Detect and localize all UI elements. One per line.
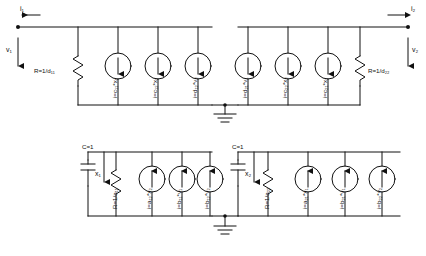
- label-source-c21x1: i=c₂₁*x₁: [322, 78, 328, 98]
- label-capacitor-right: C=1: [232, 144, 244, 150]
- label-node-x1: x₁: [95, 170, 101, 177]
- label-source-b12v2: i=b₁₂*v₂: [204, 188, 210, 209]
- label-source-a21x1: i=a₂₁*x₁: [302, 188, 308, 209]
- label-source-b22v2: i=b₂₂*v₂: [376, 188, 382, 209]
- label-source-b21v1: i=b₂₁*v₁: [339, 188, 345, 209]
- label-source-c12x2: i=c₁₂*x₂: [152, 78, 158, 98]
- label-source-c22x2: i=c₂₂*x₂: [282, 77, 288, 98]
- label-source-a12x2: i=a₁₂*x₂: [146, 188, 152, 209]
- label-i1: i₁: [20, 5, 24, 12]
- label-source-c11x1: i=c₁₁*x₁: [112, 78, 118, 98]
- label-source-d21v1: i=d₂₁*v₁: [242, 77, 248, 98]
- circuit-diagram: i₁ i₂ v₁ v₂ R=1/d₁₁ i=c₁₁*x₁ i=c₁₂*x₂ i=…: [0, 0, 426, 256]
- label-i2: i₂: [411, 5, 415, 12]
- label-v2: v₂: [412, 46, 418, 53]
- label-source-d12v2: i=d₁₂*v₂: [192, 77, 198, 98]
- label-source-b11v1: i=b₁₁*v₁: [176, 189, 182, 209]
- schematic-canvas: [0, 0, 426, 256]
- label-v1: v₁: [6, 46, 12, 53]
- label-resistor-a11: R=1/a₁₁: [112, 188, 118, 209]
- label-resistor-d22: R=1/d₂₂: [368, 68, 390, 74]
- label-node-x2: x₂: [245, 170, 251, 177]
- label-capacitor-left: C=1: [82, 144, 94, 150]
- label-resistor-a22: R=1/a₂₂: [264, 188, 270, 210]
- label-resistor-d11: R=1/d₁₁: [34, 68, 55, 74]
